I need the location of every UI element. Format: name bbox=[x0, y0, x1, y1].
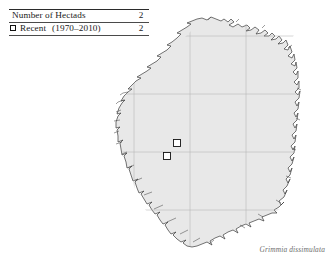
hectad-record-marker[interactable] bbox=[164, 153, 171, 160]
open-square-icon bbox=[10, 25, 16, 31]
ireland-coastline-path bbox=[116, 17, 300, 247]
legend-header-label: Number of Hectads bbox=[9, 11, 86, 21]
ireland-landmass bbox=[116, 17, 300, 247]
hectad-record-marker[interactable] bbox=[174, 140, 181, 147]
distribution-map-figure: Number of Hectads 2 Recent (1970–2010) 2 bbox=[0, 0, 333, 266]
map-canvas bbox=[96, 10, 328, 258]
legend-item-period: (1970–2010) bbox=[52, 24, 101, 34]
species-caption: Grimmia dissimulata bbox=[260, 245, 325, 254]
legend-item-label: Recent bbox=[20, 24, 46, 34]
